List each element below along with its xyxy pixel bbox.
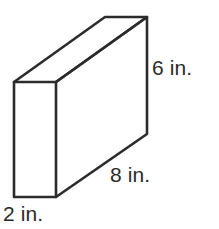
rectangular-prism-figure: 6 in. 8 in. 2 in. xyxy=(0,0,219,229)
depth-dimension-label: 2 in. xyxy=(3,203,43,224)
length-dimension-label: 8 in. xyxy=(110,164,150,185)
height-dimension-label: 6 in. xyxy=(152,57,192,78)
prism-left-face xyxy=(14,82,56,197)
prism-drawing xyxy=(0,0,219,229)
